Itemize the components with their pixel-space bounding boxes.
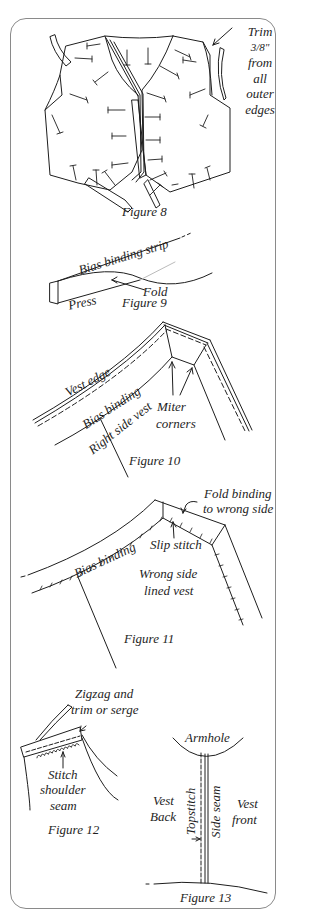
figure-8-caption: Figure 8 — [122, 205, 167, 218]
trim-line-4: all — [238, 71, 282, 87]
figure-13-vest-front-label-2: front — [232, 813, 257, 826]
figure-12-zigzag-label-2: trim or serge — [71, 703, 138, 716]
figure-13-vest-back-label-1: Vest — [153, 794, 174, 807]
figure-12-stitch-label-1: Stitch — [48, 768, 78, 781]
figure-11-fold-label-2: to wrong side — [203, 502, 273, 515]
figure-12-caption: Figure 12 — [48, 823, 99, 836]
trim-line-5: outer — [238, 86, 282, 102]
figure-13-armhole-label: Armhole — [185, 731, 230, 744]
figure-12-stitch-label-3: seam — [50, 799, 77, 812]
figure-10-miter-label: Miter — [157, 400, 186, 413]
figure-11-wrong-side-label-2: lined vest — [144, 584, 193, 597]
figure-12-zigzag-label-1: Zigzag and — [75, 687, 133, 700]
figure-11-wrong-side-label-1: Wrong side — [139, 567, 197, 580]
figure-11-fold-label-1: Fold binding — [204, 487, 272, 500]
figure-13-side-seam-label: Side seam — [209, 786, 222, 838]
figure-9-bias-strip-drawing — [50, 233, 212, 304]
figure-13-topstitch-label: Topstitch — [184, 788, 197, 835]
figure-8-trim-note: Trim 3/8" from all outer edges — [238, 24, 282, 117]
figure-9-caption: Figure 9 — [122, 296, 167, 309]
trim-line-6: edges — [238, 102, 282, 118]
trim-line-1: Trim — [238, 24, 282, 40]
figure-8-vest-drawing — [45, 28, 232, 212]
trim-line-2: 3/8" — [238, 40, 282, 56]
figure-13-caption: Figure 13 — [180, 891, 231, 904]
figure-12-stitch-label-2: shoulder — [40, 783, 86, 796]
trim-line-3: from — [238, 55, 282, 71]
figure-10-caption: Figure 10 — [129, 454, 180, 467]
figure-11-caption: Figure 11 — [124, 632, 174, 645]
figure-11-slip-stitch-label: Slip stitch — [150, 538, 202, 551]
figure-10-corners-label: corners — [156, 417, 196, 430]
figure-13-vest-back-label-2: Back — [150, 810, 176, 823]
figure-13-vest-front-label-1: Vest — [237, 797, 258, 810]
